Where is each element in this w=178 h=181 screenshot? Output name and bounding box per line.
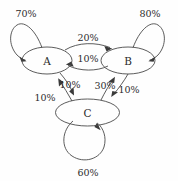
edge-label-A-A: 70% (15, 8, 36, 19)
node-a-label: A (42, 55, 51, 67)
edge-label-A-C: 10% (34, 92, 55, 103)
edge-b-a-path (68, 66, 108, 71)
edge-label-B-A: 10% (77, 53, 98, 64)
edge-b-c-arrowhead (111, 91, 118, 97)
edge-A-A: 70% (11, 8, 42, 62)
edge-label-A-B: 20% (77, 32, 98, 43)
edge-A-B: 20% (65, 32, 112, 52)
edge-B-B: 80% (133, 8, 164, 62)
self-loop-c-arrowhead (94, 122, 100, 130)
edge-label-C-A: 10% (59, 79, 80, 90)
edge-C-A: 10% (58, 78, 80, 101)
node-b-label: B (124, 55, 132, 67)
edge-label-B-B: 80% (139, 8, 160, 19)
node-A[interactable]: A (22, 47, 72, 74)
edge-label-C-C: 60% (77, 167, 98, 178)
state-transition-diagram: 70% 80% 60% 20% 10% (0, 0, 178, 181)
edge-C-B: 30% (94, 77, 115, 100)
self-loop-a-path (11, 24, 42, 60)
edge-C-C: 60% (64, 121, 105, 178)
edge-label-B-C: 10% (118, 84, 139, 95)
node-C[interactable]: C (56, 99, 120, 126)
self-loop-b-path (133, 24, 164, 60)
edge-a-b-path (65, 44, 110, 50)
node-c-label: C (83, 107, 91, 119)
node-B[interactable]: B (101, 47, 155, 74)
edge-label-C-B: 30% (94, 80, 115, 91)
diagram-canvas: 70% 80% 60% 20% 10% (0, 0, 178, 181)
